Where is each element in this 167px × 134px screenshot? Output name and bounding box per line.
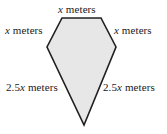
label-lower-right-prefix: 2.5 — [103, 81, 117, 93]
label-top-side: x meters — [58, 3, 96, 15]
label-upper-left-unit: meters — [10, 24, 43, 36]
polygon-diagram — [0, 0, 167, 134]
label-upper-left-side: x meters — [5, 24, 43, 36]
label-upper-right-unit: meters — [119, 24, 152, 36]
label-lower-right-unit: meters — [122, 81, 155, 93]
label-upper-right-side: x meters — [114, 24, 152, 36]
label-lower-right-side: 2.5x meters — [103, 81, 155, 93]
geometry-figure: x meters x meters x meters 2.5x meters 2… — [0, 0, 167, 134]
label-lower-left-unit: meters — [25, 81, 58, 93]
label-top-unit: meters — [63, 3, 96, 15]
kite-polygon-shape — [47, 18, 116, 125]
label-lower-left-prefix: 2.5 — [6, 81, 20, 93]
label-lower-left-side: 2.5x meters — [6, 81, 58, 93]
